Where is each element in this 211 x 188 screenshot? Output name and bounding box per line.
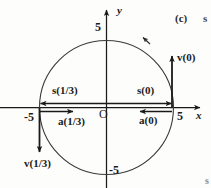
y-tick-negative-5: -5 — [109, 164, 119, 176]
vector-label-a0: a(0) — [139, 115, 157, 126]
y-axis-label: y — [117, 5, 122, 16]
circle-direction-arrow-icon — [143, 38, 150, 45]
x-tick-positive-5: 5 — [177, 110, 183, 122]
y-tick-positive-5: 5 — [95, 21, 101, 33]
origin-label: O — [99, 108, 108, 120]
x-axis-label: x — [196, 110, 202, 121]
vector-label-a13: a(1/3) — [58, 116, 85, 127]
panel-identifier: (c) — [175, 13, 187, 24]
vector-label-s0: s(0) — [137, 85, 154, 96]
vector-label-s13: s(1/3) — [52, 85, 78, 96]
x-tick-negative-5: -5 — [24, 111, 34, 123]
vector-circle-figure: y x 5 -5 -5 5 O s(0) a(0) v(0) s(1/3) a(… — [0, 0, 211, 188]
vector-label-v13: v(1/3) — [24, 158, 51, 169]
vector-label-v0: v(0) — [177, 52, 195, 63]
cut-off-text-bottom: s — [205, 176, 209, 186]
cut-off-text-right: s — [203, 13, 207, 24]
